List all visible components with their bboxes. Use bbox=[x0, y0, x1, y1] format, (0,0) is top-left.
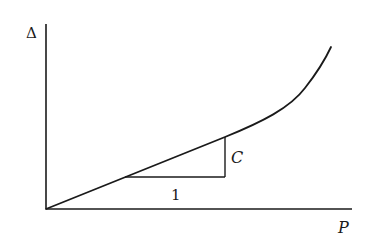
slope-rise-label: C bbox=[231, 148, 243, 167]
y-axis-label: Δ bbox=[26, 24, 37, 42]
load-deflection-diagram: Δ P 1 C bbox=[0, 0, 369, 247]
x-axis-label: P bbox=[337, 218, 349, 237]
load-deflection-curve bbox=[46, 47, 331, 209]
slope-run-label: 1 bbox=[171, 186, 181, 204]
